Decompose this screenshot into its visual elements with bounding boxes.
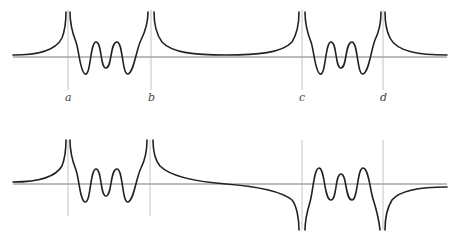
bottom-plot [13, 140, 447, 230]
bottom-curve-bc [153, 140, 299, 230]
label-b: b [148, 91, 155, 104]
top-curve-bc [154, 12, 299, 55]
bottom-curve-cd [305, 168, 380, 230]
top-curve-cd [305, 12, 381, 74]
diagram-canvas: a b c d [0, 0, 451, 242]
top-curve-right-tail [385, 12, 447, 55]
label-c: c [299, 91, 305, 104]
bottom-curve-right-tail [385, 187, 447, 230]
top-curve-left-tail [13, 12, 66, 55]
bottom-curve-ab [70, 140, 147, 202]
bottom-curve-left-tail [13, 140, 66, 182]
label-d: d [380, 91, 387, 104]
top-plot: a b c d [13, 10, 447, 104]
label-a: a [65, 91, 72, 104]
top-curve-ab [70, 12, 148, 74]
